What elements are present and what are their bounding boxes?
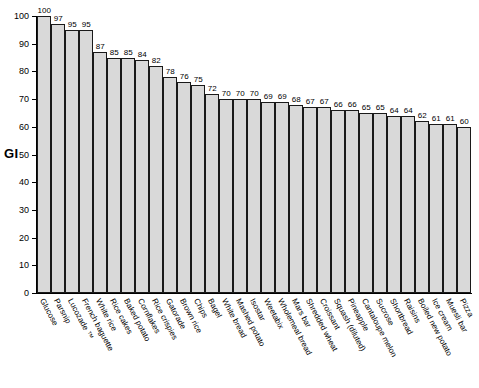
x-label-slot: White bread [219, 295, 233, 388]
x-label-slot: Baked potato [121, 295, 135, 388]
y-axis-tick-mark [32, 155, 36, 156]
y-axis-tick-mark [32, 182, 36, 183]
bar[interactable] [345, 110, 359, 293]
bar-value-label: 87 [96, 42, 105, 51]
bar[interactable] [261, 102, 275, 293]
x-label-slot: Lucozade ™ [65, 295, 79, 388]
bar[interactable] [65, 30, 79, 293]
y-axis-tick-label: 90 [0, 39, 29, 49]
bar[interactable] [37, 16, 51, 293]
bar[interactable] [387, 116, 401, 293]
x-label-slot: Pizza [457, 295, 471, 388]
bar[interactable] [429, 124, 443, 293]
bar-slot: 95 [65, 16, 79, 293]
bar-value-label: 84 [138, 50, 147, 59]
bar-slot: 67 [317, 16, 331, 293]
bar[interactable] [275, 102, 289, 293]
bar[interactable] [149, 66, 163, 293]
bar[interactable] [303, 107, 317, 293]
x-label-slot: Gatorade [163, 295, 177, 388]
x-label-slot: Shredded wheat [303, 295, 317, 388]
bar[interactable] [177, 82, 191, 293]
y-axis-tick-label: 80 [0, 66, 29, 76]
bar[interactable] [219, 99, 233, 293]
bar[interactable] [415, 121, 429, 293]
bar[interactable] [373, 113, 387, 293]
bar-slot: 65 [373, 16, 387, 293]
y-axis-tick-label: 70 [0, 94, 29, 104]
bar-value-label: 75 [194, 75, 203, 84]
bar-slot: 64 [387, 16, 401, 293]
bar-slot: 95 [79, 16, 93, 293]
bar[interactable] [79, 30, 93, 293]
bar-value-label: 65 [362, 103, 371, 112]
x-label-slot: Brown rice [177, 295, 191, 388]
bar[interactable] [233, 99, 247, 293]
x-label-slot: White rice [93, 295, 107, 388]
bar-slot: 65 [359, 16, 373, 293]
bar[interactable] [289, 105, 303, 293]
bar-slot: 78 [163, 16, 177, 293]
bar[interactable] [443, 124, 457, 293]
bar[interactable] [331, 110, 345, 293]
x-label-slot: French baguette [79, 295, 93, 388]
x-axis-tick-label: Pizza [458, 297, 475, 318]
x-label-slot: Ice cream [429, 295, 443, 388]
bar-value-label: 70 [236, 89, 245, 98]
x-label-slot: Sucrose [373, 295, 387, 388]
bar-value-label: 95 [82, 20, 91, 29]
bar-slot: 66 [345, 16, 359, 293]
x-label-slot: Pineapple [345, 295, 359, 388]
bar[interactable] [135, 60, 149, 293]
bar-value-label: 60 [460, 117, 469, 126]
bar-slot: 68 [289, 16, 303, 293]
y-axis-tick-label: 40 [0, 177, 29, 187]
bar-value-label: 64 [390, 106, 399, 115]
x-label-slot: Raisins [401, 295, 415, 388]
bar[interactable] [93, 52, 107, 293]
bar[interactable] [359, 113, 373, 293]
bar[interactable] [457, 127, 471, 293]
bar[interactable] [317, 107, 331, 293]
x-label-slot: Muesli bar [443, 295, 457, 388]
y-axis-tick-mark [32, 265, 36, 266]
bar[interactable] [191, 85, 205, 293]
bar[interactable] [51, 24, 65, 293]
x-axis-line [36, 293, 472, 294]
bar-slot: 66 [331, 16, 345, 293]
x-label-slot: Squash (diluted) [331, 295, 345, 388]
bar[interactable] [163, 77, 177, 293]
bar-value-label: 76 [180, 72, 189, 81]
bar-value-label: 85 [110, 48, 119, 57]
y-axis-tick-mark [32, 127, 36, 128]
bar[interactable] [205, 94, 219, 293]
bar-value-label: 67 [306, 97, 315, 106]
bar-value-label: 78 [166, 67, 175, 76]
bar-slot: 69 [261, 16, 275, 293]
y-axis-tick-mark [32, 71, 36, 72]
bar-value-label: 66 [334, 100, 343, 109]
bar-slot: 75 [191, 16, 205, 293]
x-label-slot: Shortbread [387, 295, 401, 388]
bar[interactable] [107, 58, 121, 293]
bar-slot: 70 [233, 16, 247, 293]
bar-slot: 60 [457, 16, 471, 293]
glycemic-index-bar-chart: GI 0102030405060708090100 10097959587858… [0, 0, 479, 388]
y-axis-tick-mark [32, 238, 36, 239]
x-label-slot: Chips [191, 295, 205, 388]
bar-slot: 85 [121, 16, 135, 293]
x-label-slot: Weetabix [261, 295, 275, 388]
bar[interactable] [401, 116, 415, 293]
bar[interactable] [121, 58, 135, 293]
bar-slot: 82 [149, 16, 163, 293]
bar-value-label: 62 [418, 111, 427, 120]
x-label-slot: Rice cakes [107, 295, 121, 388]
x-label-slot: Cornflakes [135, 295, 149, 388]
x-label-slot: Glucose [37, 295, 51, 388]
y-axis-tick-label: 60 [0, 122, 29, 132]
bar-value-label: 61 [446, 114, 455, 123]
bar[interactable] [247, 99, 261, 293]
y-axis-tick-mark [32, 16, 36, 17]
y-axis-tick-mark [32, 210, 36, 211]
x-label-slot: Boiled new potato [415, 295, 429, 388]
